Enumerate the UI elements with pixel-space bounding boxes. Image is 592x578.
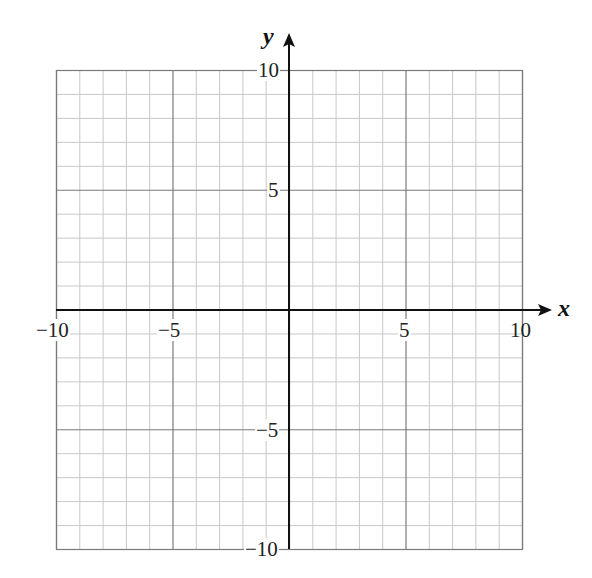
- x-tick-label-neg5: −5: [157, 319, 181, 341]
- x-tick-label-5: 5: [398, 319, 411, 341]
- x-tick-label-neg10: −10: [35, 319, 70, 341]
- y-axis-label: y: [263, 24, 274, 48]
- x-axis-label: x: [558, 296, 570, 320]
- x-tick-label-10: 10: [509, 319, 532, 341]
- y-tick-label-neg5: −5: [255, 419, 279, 441]
- y-tick-label-10: 10: [257, 59, 280, 81]
- coordinate-plane: [0, 0, 592, 578]
- y-tick-label-5: 5: [267, 179, 280, 201]
- y-tick-label-neg10: −10: [244, 538, 279, 560]
